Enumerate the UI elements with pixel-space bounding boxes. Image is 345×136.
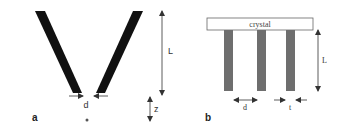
column-1 — [224, 30, 233, 91]
panel-a-label: a — [32, 112, 38, 123]
column-2 — [257, 30, 266, 91]
panel-b: crystal L d t b — [205, 18, 327, 123]
thickness-label: t — [289, 103, 292, 112]
right-slit-bar — [96, 11, 143, 93]
crystal-label: crystal — [249, 20, 271, 29]
panel-b-label: b — [205, 112, 211, 123]
column-3 — [286, 30, 295, 91]
distance-label: z — [154, 104, 159, 114]
length-label: L — [322, 56, 327, 65]
gap-label: d — [83, 100, 88, 110]
left-slit-bar — [35, 11, 82, 93]
length-label: L — [168, 46, 173, 56]
observation-point — [86, 119, 89, 122]
spacing-label: d — [243, 103, 247, 112]
panel-a: d L z a — [32, 11, 173, 123]
diagram-canvas: d L z a crystal L d t b — [0, 0, 345, 136]
